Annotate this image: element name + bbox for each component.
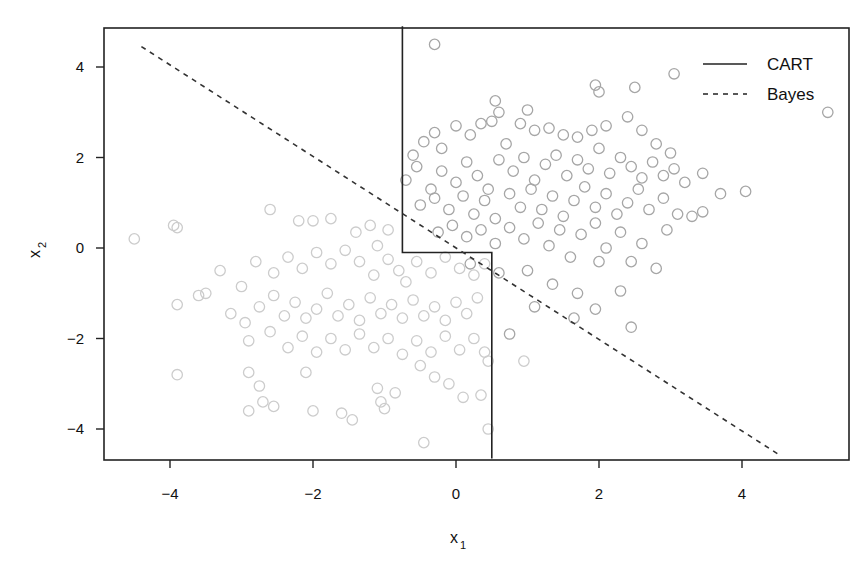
data-point-class-2: [340, 345, 350, 355]
y-tick-label: 0: [76, 239, 84, 256]
data-point-class-1: [476, 225, 486, 235]
data-point-class-1: [651, 139, 661, 149]
data-point-class-1: [622, 112, 632, 122]
x-axis-label-subscript: 1: [460, 539, 466, 551]
data-point-class-2: [244, 336, 254, 346]
data-point-class-2: [415, 360, 425, 370]
data-point-class-1: [569, 313, 579, 323]
data-point-class-1: [823, 107, 833, 117]
data-point-class-1: [601, 121, 611, 131]
data-point-class-1: [551, 150, 561, 160]
data-point-class-2: [326, 259, 336, 269]
data-point-class-1: [429, 39, 439, 49]
data-point-class-2: [308, 216, 318, 226]
data-point-class-1: [590, 304, 600, 314]
data-point-class-2: [347, 415, 357, 425]
data-point-class-2: [372, 383, 382, 393]
x-tick-label: 2: [595, 485, 603, 502]
data-point-class-2: [129, 234, 139, 244]
data-point-class-2: [408, 295, 418, 305]
data-point-class-2: [244, 406, 254, 416]
data-point-class-1: [465, 130, 475, 140]
data-point-class-1: [483, 184, 493, 194]
data-point-class-1: [469, 209, 479, 219]
data-point-class-2: [240, 318, 250, 328]
y-axis-label-text: x: [26, 250, 43, 258]
data-point-class-2: [440, 331, 450, 341]
data-point-class-2: [279, 311, 289, 321]
data-point-class-2: [429, 302, 439, 312]
data-point-class-1: [590, 202, 600, 212]
data-point-class-1: [479, 195, 489, 205]
data-point-class-2: [372, 241, 382, 251]
data-point-class-1: [562, 170, 572, 180]
data-point-class-1: [529, 125, 539, 135]
data-point-class-1: [651, 263, 661, 273]
data-point-class-2: [469, 333, 479, 343]
data-point-class-2: [383, 254, 393, 264]
data-point-class-1: [522, 105, 532, 115]
data-point-class-1: [647, 157, 657, 167]
data-point-class-2: [394, 265, 404, 275]
data-point-class-1: [615, 152, 625, 162]
y-tick-label: 2: [76, 149, 84, 166]
data-point-class-1: [558, 130, 568, 140]
y-axis-ticks: −4−2024: [67, 58, 104, 437]
data-points: [129, 39, 833, 448]
data-point-class-1: [672, 209, 682, 219]
data-point-class-1: [637, 173, 647, 183]
data-point-class-1: [601, 189, 611, 199]
data-point-class-1: [665, 148, 675, 158]
data-point-class-2: [269, 401, 279, 411]
data-point-class-2: [172, 299, 182, 309]
bayes-boundary-line: [141, 47, 781, 457]
data-point-class-2: [251, 256, 261, 266]
data-point-class-2: [419, 437, 429, 447]
data-point-class-1: [565, 252, 575, 262]
data-point-class-2: [472, 293, 482, 303]
data-point-class-1: [547, 279, 557, 289]
data-point-class-2: [519, 356, 529, 366]
data-point-class-2: [283, 252, 293, 262]
data-point-class-2: [265, 327, 275, 337]
data-point-class-1: [669, 69, 679, 79]
data-point-class-2: [454, 263, 464, 273]
data-point-class-2: [283, 342, 293, 352]
data-point-class-1: [669, 164, 679, 174]
data-point-class-1: [626, 322, 636, 332]
data-point-class-1: [462, 232, 472, 242]
data-point-class-1: [558, 211, 568, 221]
data-point-class-2: [365, 220, 375, 230]
data-point-class-2: [401, 277, 411, 287]
plot-frame: [104, 28, 849, 460]
data-point-class-1: [583, 164, 593, 174]
data-point-class-1: [637, 238, 647, 248]
y-tick-label: −4: [67, 420, 84, 437]
data-point-class-2: [265, 204, 275, 214]
data-point-class-2: [469, 270, 479, 280]
data-point-class-2: [458, 392, 468, 402]
data-point-class-1: [526, 184, 536, 194]
data-point-class-1: [576, 229, 586, 239]
data-point-class-2: [311, 347, 321, 357]
data-point-class-2: [454, 345, 464, 355]
data-point-class-1: [601, 243, 611, 253]
data-point-class-2: [376, 308, 386, 318]
data-point-class-2: [390, 388, 400, 398]
data-point-class-1: [644, 204, 654, 214]
data-point-class-1: [494, 107, 504, 117]
data-point-class-1: [540, 159, 550, 169]
data-point-class-2: [419, 311, 429, 321]
x-axis-label: x 1: [450, 529, 466, 551]
data-point-class-1: [569, 195, 579, 205]
data-point-class-2: [444, 379, 454, 389]
data-point-class-2: [308, 406, 318, 416]
y-axis-label-subscript: 2: [36, 242, 48, 248]
decision-boundaries: [141, 26, 781, 458]
data-point-class-2: [326, 213, 336, 223]
data-point-class-1: [501, 139, 511, 149]
data-point-class-1: [615, 286, 625, 296]
data-point-class-2: [369, 342, 379, 352]
data-point-class-1: [490, 238, 500, 248]
data-point-class-1: [504, 222, 514, 232]
